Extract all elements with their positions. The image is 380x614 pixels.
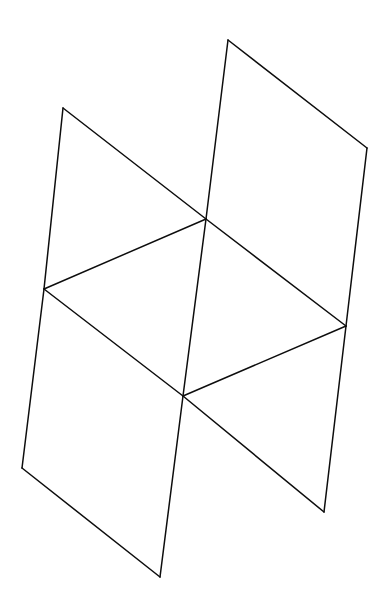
geometric-figure-canvas: Geometric net of triangles and parallelo…: [0, 0, 380, 614]
